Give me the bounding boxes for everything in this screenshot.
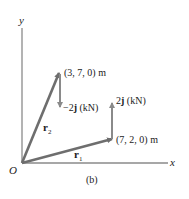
y-axis-label: y <box>18 14 24 26</box>
point-label-p2: (3, 7, 0) m <box>64 67 106 79</box>
x-axis-label: x <box>169 156 175 168</box>
force-down-label: −2j (kN) <box>63 102 98 114</box>
force-up-label: 2j (kN) <box>116 95 146 107</box>
forces: −2j (kN) 2j (kN) <box>60 74 146 139</box>
figure-caption: (b) <box>86 174 98 186</box>
r2-label: r2 <box>43 121 52 136</box>
point-label-p1: (7, 2, 0) m <box>116 134 158 146</box>
position-vectors: r2 r1 <box>22 73 112 163</box>
axes: y x O <box>9 14 175 176</box>
moment-diagram: y x O r2 r1 −2j (kN) 2j (kN) (3, 7, 0) m… <box>0 0 189 199</box>
r1-label: r1 <box>74 148 83 163</box>
r2-vector <box>22 73 59 163</box>
origin-label: O <box>9 164 17 176</box>
r1-vector <box>22 139 112 163</box>
